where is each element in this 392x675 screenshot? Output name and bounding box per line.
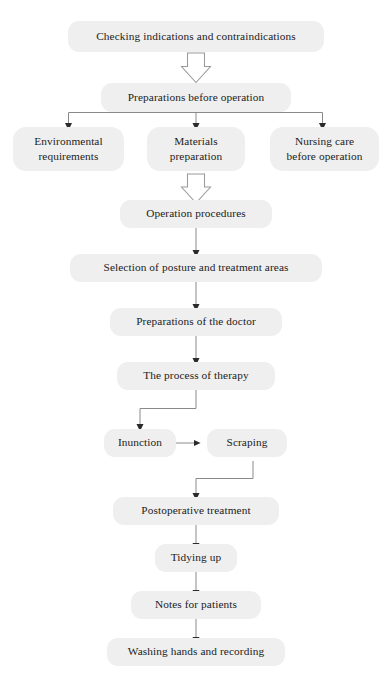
flowchart: Checking indications and contraindicatio… (0, 0, 392, 675)
node-washing-hands-and-recording-label: Washing hands and recording (113, 645, 279, 659)
node-environmental-requirements-label: Environmental requirements (19, 134, 118, 163)
node-preparations-of-the-doctor-label: Preparations of the doctor (116, 315, 276, 329)
node-postoperative-treatment-label: Postoperative treatment (119, 504, 273, 518)
node-notes-for-patients-label: Notes for patients (137, 598, 255, 612)
node-scraping[interactable]: Scraping (207, 429, 287, 457)
node-inunction-label: Inunction (110, 436, 170, 450)
node-materials-preparation-line1: Materials (153, 134, 239, 149)
node-checking-indications-label: Checking indications and contraindicatio… (74, 30, 318, 44)
node-environmental-requirements-line1: Environmental (19, 134, 118, 149)
node-operation-procedures-label: Operation procedures (126, 207, 266, 221)
node-environmental-requirements[interactable]: Environmental requirements (13, 127, 124, 171)
node-environmental-requirements-line2: requirements (19, 149, 118, 164)
node-nursing-care-before-operation-line1: Nursing care (276, 134, 373, 149)
node-process-of-therapy-label: The process of therapy (123, 369, 269, 383)
node-preparations-of-the-doctor[interactable]: Preparations of the doctor (110, 308, 282, 336)
node-materials-preparation-line2: preparation (153, 149, 239, 164)
node-nursing-care-before-operation[interactable]: Nursing care before operation (270, 127, 379, 171)
node-nursing-care-before-operation-label: Nursing care before operation (276, 134, 373, 163)
node-selection-of-posture-label: Selection of posture and treatment areas (76, 261, 316, 275)
node-tidying-up[interactable]: Tidying up (155, 544, 237, 572)
node-materials-preparation-label: Materials preparation (153, 134, 239, 163)
node-nursing-care-before-operation-line2: before operation (276, 149, 373, 164)
hollow-arrow-checking-to-preparations (182, 53, 211, 83)
connector-scraping-to-postoperative (196, 461, 253, 494)
node-postoperative-treatment[interactable]: Postoperative treatment (113, 497, 279, 525)
node-scraping-label: Scraping (213, 436, 281, 450)
node-process-of-therapy[interactable]: The process of therapy (117, 362, 275, 390)
node-checking-indications[interactable]: Checking indications and contraindicatio… (68, 21, 324, 52)
node-inunction[interactable]: Inunction (104, 429, 176, 457)
node-selection-of-posture[interactable]: Selection of posture and treatment areas (70, 254, 322, 282)
node-preparations-before-operation-label: Preparations before operation (107, 91, 285, 105)
node-tidying-up-label: Tidying up (161, 551, 231, 565)
node-operation-procedures[interactable]: Operation procedures (120, 200, 272, 228)
node-notes-for-patients[interactable]: Notes for patients (131, 591, 261, 619)
connector-process-to-inunction (140, 390, 196, 425)
node-preparations-before-operation[interactable]: Preparations before operation (101, 83, 291, 112)
node-washing-hands-and-recording[interactable]: Washing hands and recording (107, 638, 285, 666)
hollow-arrow-materials-to-operation-procedures (182, 174, 211, 203)
node-materials-preparation[interactable]: Materials preparation (147, 127, 245, 171)
